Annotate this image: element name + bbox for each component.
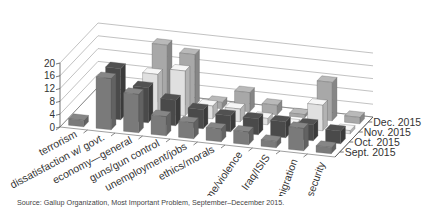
bar [261, 135, 281, 148]
y-axis: 048121620 [44, 58, 60, 133]
bar [151, 110, 171, 136]
bar [96, 72, 116, 130]
x-tick [111, 133, 115, 136]
x-tick [304, 154, 308, 157]
y-tick [56, 114, 60, 115]
x-tick [139, 136, 143, 139]
legend-label: Dec. 2015 [373, 116, 421, 128]
x-tick [194, 142, 198, 145]
x-tick [84, 130, 88, 133]
x-tick-label: Iraq/ISIS [239, 152, 272, 192]
bar [326, 124, 346, 143]
bar-series [69, 39, 365, 154]
bar [206, 122, 226, 141]
gridline [60, 23, 373, 63]
bar [316, 141, 336, 154]
y-tick-label: 20 [44, 58, 56, 69]
y-tick [56, 76, 60, 77]
bar [234, 125, 254, 144]
y-tick-label: 0 [49, 122, 55, 133]
bar [271, 115, 291, 138]
bar [179, 116, 199, 139]
x-tick [276, 151, 280, 154]
y-tick [56, 101, 60, 102]
y-tick-label: 16 [44, 70, 56, 81]
bar [345, 111, 365, 124]
x-tick [249, 148, 253, 151]
source-note: Source: Gallup Organization, Most Import… [17, 198, 284, 207]
bar [69, 114, 89, 127]
y-tick [56, 63, 60, 64]
y-tick-label: 12 [44, 83, 56, 94]
bar [262, 99, 282, 115]
bar [290, 108, 310, 118]
bar-chart-3d: 048121620 terrorismdissatisfaction w/ go… [0, 0, 433, 196]
x-tick [221, 145, 225, 148]
y-tick [56, 89, 60, 90]
y-tick-label: 8 [49, 96, 55, 107]
bar [289, 122, 309, 151]
x-tick [166, 139, 170, 142]
bar [124, 88, 144, 133]
x-tick-label: immigration [270, 157, 300, 196]
y-tick-label: 4 [49, 109, 55, 120]
